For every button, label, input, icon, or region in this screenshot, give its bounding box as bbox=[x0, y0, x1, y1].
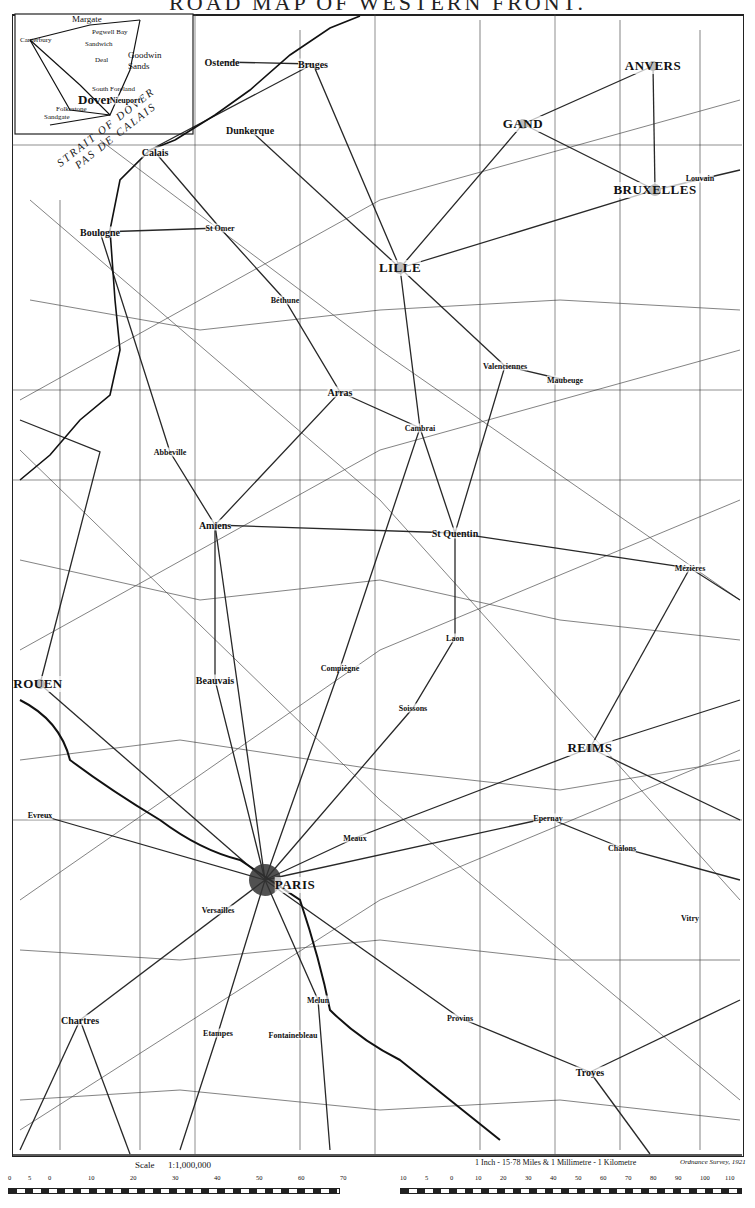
city-label-ch-lons: Châlons bbox=[608, 844, 636, 853]
city-label-lille: LILLE bbox=[379, 260, 421, 276]
miles-tick: 20 bbox=[130, 1174, 137, 1181]
city-label-arras: Arras bbox=[328, 387, 353, 398]
city-label-melun: Melun bbox=[307, 996, 329, 1005]
inset-label-margate: Margate bbox=[72, 14, 102, 24]
miles-tick: 50 bbox=[256, 1174, 263, 1181]
city-label-provins: Provins bbox=[447, 1014, 473, 1023]
km-tick: 90 bbox=[675, 1174, 682, 1181]
city-label-bruxelles: BRUXELLES bbox=[613, 182, 696, 198]
inset-label-sandwich: Sandwich bbox=[85, 40, 113, 48]
city-label-cambrai: Cambrai bbox=[405, 424, 436, 433]
inset-label-pegwell-bay: Pegwell Bay bbox=[92, 28, 128, 36]
city-label-amiens: Amiens bbox=[199, 520, 231, 531]
scale-legend: Scale 1:1,000,000 1 Inch - 15·78 Miles &… bbox=[0, 1160, 755, 1208]
city-label-st-quentin: St Quentin bbox=[432, 528, 478, 539]
city-label-vitry: Vitry bbox=[681, 914, 699, 923]
city-label-dunkerque: Dunkerque bbox=[226, 125, 274, 136]
scale-label: Scale bbox=[135, 1160, 155, 1170]
inset-label-folkestone: Folkestone bbox=[56, 105, 87, 113]
scale-ratio: 1:1,000,000 bbox=[168, 1160, 211, 1170]
city-label-compi-gne: Compiègne bbox=[321, 664, 360, 673]
inset-label-sandgate: Sandgate bbox=[44, 113, 70, 121]
city-label-troyes: Troyes bbox=[576, 1067, 605, 1078]
inset-label-canterbury: Canterbury bbox=[20, 36, 52, 44]
km-tick: 10 bbox=[475, 1174, 482, 1181]
city-label-meaux: Meaux bbox=[343, 834, 367, 843]
miles-tick: 10 bbox=[88, 1174, 95, 1181]
city-label-anvers: ANVERS bbox=[625, 58, 681, 74]
city-label-evreux: Evreux bbox=[28, 811, 53, 820]
km-tick: 50 bbox=[575, 1174, 582, 1181]
city-label-st-omer: St Omer bbox=[205, 224, 234, 233]
scale-conversion-note: 1 Inch - 15·78 Miles & 1 Millimetre - 1 … bbox=[475, 1158, 636, 1167]
inset-label-deal: Deal bbox=[95, 56, 108, 64]
city-label-reims: REIMS bbox=[567, 740, 612, 756]
km-tick: 30 bbox=[525, 1174, 532, 1181]
city-label-ostende: Ostende bbox=[205, 57, 240, 68]
miles-tick: 5 bbox=[28, 1174, 31, 1181]
city-label-maubeuge: Maubeuge bbox=[547, 376, 583, 385]
city-label-bruges: Bruges bbox=[298, 59, 328, 70]
city-label-beauvais: Beauvais bbox=[196, 675, 234, 686]
miles-tick: 0 bbox=[8, 1174, 11, 1181]
miles-tick: 70 bbox=[340, 1174, 347, 1181]
city-label-boulogne: Boulogne bbox=[80, 227, 120, 238]
city-label-louvain: Louvain bbox=[686, 174, 714, 183]
km-tick: 20 bbox=[500, 1174, 507, 1181]
miles-tick: 30 bbox=[172, 1174, 179, 1181]
km-tick: 100 bbox=[700, 1174, 710, 1181]
city-label-calais: Calais bbox=[142, 147, 169, 158]
inset-label-goodwin-sands: Goodwin Sands bbox=[128, 50, 178, 72]
city-label-versailles: Versailles bbox=[202, 906, 235, 915]
miles-tick: 40 bbox=[214, 1174, 221, 1181]
publisher-credit: Ordnance Survey, 1921 bbox=[680, 1158, 746, 1166]
city-label-abbeville: Abbeville bbox=[154, 448, 186, 457]
city-label-paris: PARIS bbox=[275, 877, 316, 893]
city-label-laon: Laon bbox=[446, 634, 464, 643]
km-tick: 10 bbox=[400, 1174, 407, 1181]
miles-tick: 0 bbox=[48, 1174, 51, 1181]
city-label-valenciennes: Valenciennes bbox=[483, 362, 527, 371]
city-label-fontainebleau: Fontainebleau bbox=[269, 1031, 318, 1040]
city-label-soissons: Soissons bbox=[399, 704, 427, 713]
km-tick: 0 bbox=[450, 1174, 453, 1181]
city-label-etampes: Etampes bbox=[203, 1029, 233, 1038]
city-label-b-thune: Béthune bbox=[271, 296, 299, 305]
km-scale-bar bbox=[400, 1188, 742, 1194]
city-label-epernay: Epernay bbox=[533, 814, 562, 823]
miles-tick: 60 bbox=[298, 1174, 305, 1181]
km-tick: 60 bbox=[600, 1174, 607, 1181]
km-tick: 70 bbox=[625, 1174, 632, 1181]
city-label-gand: GAND bbox=[503, 116, 543, 132]
city-label-m-zi-res: Mézières bbox=[675, 564, 706, 573]
km-tick: 40 bbox=[550, 1174, 557, 1181]
km-tick: 110 bbox=[725, 1174, 735, 1181]
km-tick: 5 bbox=[425, 1174, 428, 1181]
city-label-nieuport: Nieuport bbox=[110, 96, 141, 105]
city-label-chartres: Chartres bbox=[61, 1015, 99, 1026]
miles-scale-bar bbox=[8, 1188, 340, 1194]
city-label-rouen: ROUEN bbox=[13, 676, 62, 692]
km-tick: 80 bbox=[650, 1174, 657, 1181]
